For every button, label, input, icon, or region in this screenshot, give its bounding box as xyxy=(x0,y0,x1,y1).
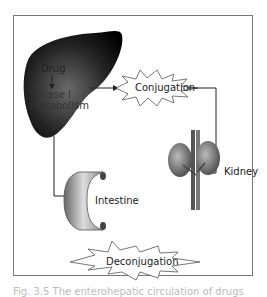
drug-label: Drug xyxy=(41,63,66,74)
figure-caption: Fig. 3.5 The enterohepatic circulation o… xyxy=(13,286,244,297)
deconjugation-label: Deconjugation xyxy=(106,256,179,267)
liver-shape xyxy=(24,31,123,138)
phase-label: Phase I xyxy=(35,89,71,100)
kidney-label: Kidney xyxy=(224,166,258,177)
intestine-label: Intestine xyxy=(95,195,139,206)
kidney-left xyxy=(168,143,192,177)
metabolism-label: metabolism xyxy=(30,100,89,111)
conjugation-label: Conjugation xyxy=(135,82,195,93)
